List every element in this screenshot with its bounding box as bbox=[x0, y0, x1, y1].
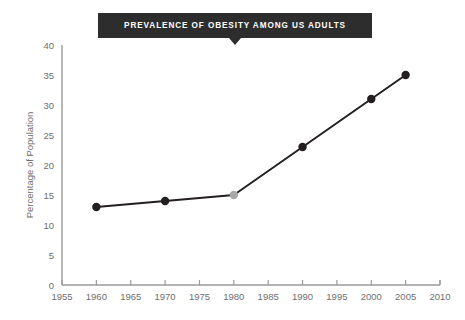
y-axis-title: Percentage of Population bbox=[24, 112, 35, 219]
y-tick-label: 15 bbox=[43, 190, 54, 201]
x-tick-label: 1965 bbox=[120, 291, 141, 302]
y-tick-label: 0 bbox=[49, 280, 54, 291]
y-tick-label: 20 bbox=[43, 160, 54, 171]
x-tick-label: 1975 bbox=[189, 291, 210, 302]
data-point-marker bbox=[298, 143, 306, 151]
axis-layer bbox=[62, 45, 440, 285]
data-point-marker bbox=[92, 203, 100, 211]
x-tick-label: 2000 bbox=[361, 291, 382, 302]
x-tick-label: 2005 bbox=[395, 291, 416, 302]
x-tick-label: 1960 bbox=[86, 291, 107, 302]
y-tick-label: 30 bbox=[43, 100, 54, 111]
data-point-marker bbox=[401, 71, 409, 79]
data-marker-layer bbox=[92, 71, 410, 211]
x-tick-label: 1980 bbox=[223, 291, 244, 302]
y-tick-label-layer: 0510152025303540 bbox=[43, 40, 54, 291]
y-tick-label: 25 bbox=[43, 130, 54, 141]
series-line bbox=[96, 75, 405, 207]
x-tick-label: 1990 bbox=[292, 291, 313, 302]
line-chart-plot: 0510152025303540 19551960196519701975198… bbox=[0, 0, 465, 320]
x-tick-label: 1985 bbox=[258, 291, 279, 302]
x-tick-label: 1970 bbox=[155, 291, 176, 302]
data-point-marker-highlighted bbox=[230, 191, 238, 199]
data-series-layer bbox=[96, 75, 405, 207]
y-tick-label: 40 bbox=[43, 40, 54, 51]
y-tick-label: 10 bbox=[43, 220, 54, 231]
y-tick-label: 5 bbox=[49, 250, 54, 261]
x-tick-label: 1995 bbox=[326, 291, 347, 302]
data-point-marker bbox=[161, 197, 169, 205]
x-tick-label: 2010 bbox=[429, 291, 450, 302]
data-point-marker bbox=[367, 95, 375, 103]
x-tick-label-layer: 1955196019651970197519801985199019952000… bbox=[51, 291, 450, 302]
x-tick-label: 1955 bbox=[51, 291, 72, 302]
chart-figure: PREVALENCE OF OBESITY AMONG US ADULTS 05… bbox=[0, 0, 465, 320]
y-tick-label: 35 bbox=[43, 70, 54, 81]
